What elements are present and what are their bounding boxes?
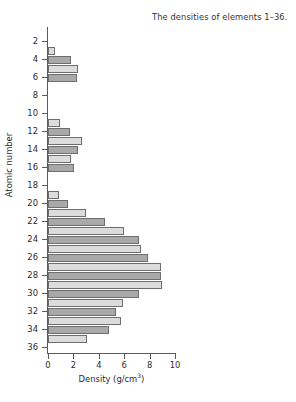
x-tick-label-2: 2 (61, 360, 85, 370)
y-tick-label-16: 16 (0, 162, 38, 172)
y-tick-label-2: 2 (0, 36, 38, 46)
y-tick-8 (42, 95, 47, 96)
y-tick-18 (42, 185, 47, 186)
plot-area (48, 28, 175, 352)
x-tick-label-0: 0 (36, 360, 60, 370)
bar-element-27 (48, 263, 161, 271)
y-tick-label-6: 6 (0, 72, 38, 82)
y-tick-label-10: 10 (0, 108, 38, 118)
x-tick-6 (124, 354, 125, 359)
x-axis-title-tail: ) (141, 374, 144, 384)
x-tick-8 (150, 354, 151, 359)
y-tick-34 (42, 329, 47, 330)
bar-element-33 (48, 317, 121, 325)
bar-element-6 (48, 74, 77, 82)
y-tick-label-32: 32 (0, 306, 38, 316)
bar-element-16 (48, 164, 74, 172)
y-tick-14 (42, 149, 47, 150)
x-tick-label-10: 10 (163, 360, 187, 370)
y-tick-label-34: 34 (0, 324, 38, 334)
x-axis-title: Density (g/cm3) (48, 374, 175, 384)
y-tick-label-14: 14 (0, 144, 38, 154)
y-tick-label-8: 8 (0, 90, 38, 100)
chart-title: The densities of elements 1–36. (152, 12, 287, 22)
bar-element-29 (48, 281, 162, 289)
x-tick-2 (73, 354, 74, 359)
x-tick-4 (99, 354, 100, 359)
y-tick-label-20: 20 (0, 198, 38, 208)
bar-element-34 (48, 326, 109, 334)
bar-element-19 (48, 191, 59, 199)
x-axis-line (47, 353, 176, 354)
y-tick-30 (42, 293, 47, 294)
x-tick-0 (48, 354, 49, 359)
y-tick-12 (42, 131, 47, 132)
y-tick-label-36: 36 (0, 342, 38, 352)
bar-element-26 (48, 254, 148, 262)
y-tick-2 (42, 41, 47, 42)
y-tick-label-26: 26 (0, 252, 38, 262)
x-tick-label-4: 4 (87, 360, 111, 370)
bar-element-35 (48, 335, 87, 343)
y-tick-label-22: 22 (0, 216, 38, 226)
y-tick-24 (42, 239, 47, 240)
y-tick-6 (42, 77, 47, 78)
y-tick-16 (42, 167, 47, 168)
density-bar-chart: The densities of elements 1–36. Atomic n… (0, 0, 296, 402)
bar-element-12 (48, 128, 70, 136)
y-tick-label-4: 4 (0, 54, 38, 64)
bar-element-31 (48, 299, 123, 307)
bar-element-24 (48, 236, 139, 244)
y-axis-line (47, 27, 48, 353)
bar-element-32 (48, 308, 116, 316)
bar-element-22 (48, 218, 105, 226)
x-tick-label-8: 8 (138, 360, 162, 370)
bar-element-23 (48, 227, 124, 235)
bar-element-4 (48, 56, 71, 64)
bar-element-14 (48, 146, 78, 154)
bar-element-15 (48, 155, 71, 163)
bar-element-21 (48, 209, 86, 217)
y-tick-10 (42, 113, 47, 114)
y-tick-22 (42, 221, 47, 222)
y-tick-4 (42, 59, 47, 60)
y-tick-label-28: 28 (0, 270, 38, 280)
x-axis-title-main: Density (g/cm (79, 374, 138, 384)
bar-element-5 (48, 65, 78, 73)
bar-element-30 (48, 290, 139, 298)
y-tick-32 (42, 311, 47, 312)
x-tick-10 (175, 354, 176, 359)
bar-element-20 (48, 200, 68, 208)
y-tick-20 (42, 203, 47, 204)
y-tick-label-30: 30 (0, 288, 38, 298)
y-tick-28 (42, 275, 47, 276)
bar-element-11 (48, 119, 60, 127)
y-tick-26 (42, 257, 47, 258)
x-tick-label-6: 6 (112, 360, 136, 370)
bar-element-3 (48, 47, 55, 55)
y-tick-label-12: 12 (0, 126, 38, 136)
y-tick-36 (42, 347, 47, 348)
bar-element-28 (48, 272, 161, 280)
y-tick-label-24: 24 (0, 234, 38, 244)
bar-element-13 (48, 137, 82, 145)
bar-element-25 (48, 245, 141, 253)
y-tick-label-18: 18 (0, 180, 38, 190)
